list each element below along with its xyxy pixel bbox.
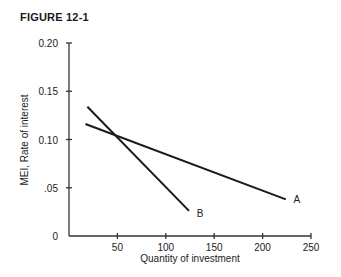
series-label-b: B (197, 208, 204, 219)
x-tick-label: 250 (303, 242, 320, 253)
x-tick-label: 50 (112, 242, 124, 253)
y-axis-title: MEI, Rate of interest (19, 94, 30, 185)
series-lines: AB (85, 107, 300, 219)
chart-plot: 0.050.100.150.2050100150200250 AB Quanti… (0, 0, 341, 277)
x-tick-label: 150 (206, 242, 223, 253)
series-label-a: A (294, 194, 301, 205)
y-tick-label: 0.10 (39, 135, 59, 146)
y-tick-label: 0.15 (39, 86, 59, 97)
y-tick-label: .05 (44, 183, 58, 194)
axes: 0.050.100.150.2050100150200250 (39, 38, 320, 253)
x-tick-label: 100 (157, 242, 174, 253)
series-line-b (87, 107, 189, 211)
y-tick-label: 0.20 (39, 38, 59, 49)
x-tick-label: 200 (254, 242, 271, 253)
y-tick-label: 0 (52, 231, 58, 242)
x-axis-title: Quantity of investment (140, 253, 240, 264)
